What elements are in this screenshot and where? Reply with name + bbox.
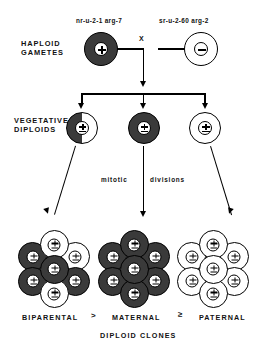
vegetative-diploids-row-label: VEGETATIVE DIPLOIDS: [14, 116, 69, 135]
paternal-clone-cell-nucleus: [228, 275, 241, 288]
plus-minus-sign-icon: [27, 251, 38, 262]
minus-sign-icon: [195, 43, 207, 55]
plus-minus-sign-icon: [76, 122, 88, 134]
plus-minus-sign-icon: [70, 276, 81, 287]
plus-minus-sign-icon: [208, 264, 219, 275]
drop-arrow-paternal: [202, 103, 208, 109]
maternal-diploid-nucleus: [137, 121, 151, 135]
drop-arrow-maternal: [140, 103, 146, 109]
plus-minus-sign-icon: [107, 276, 118, 287]
plus-minus-sign-icon: [129, 264, 140, 275]
plus-minus-sign-icon: [49, 239, 60, 250]
inheritance-diagram: nr-u-2-1 arg-7 sr-u-2-60 arg-2 HAPLOID G…: [0, 0, 267, 349]
biparental-clone-cell-nucleus: [48, 263, 61, 276]
operator-greater-equal: ≥: [178, 310, 183, 320]
plus-minus-sign-icon: [107, 251, 118, 262]
maternal-genotype-label: nr-u-2-1 arg-7: [76, 17, 122, 25]
plus-minus-sign-icon: [186, 251, 197, 262]
mitotic-arrow-head-biparental: [43, 207, 51, 215]
plus-minus-sign-icon: [229, 276, 240, 287]
mitotic-arrow-line-paternal: [210, 146, 232, 215]
biparental-clone-cell: [40, 255, 69, 284]
paternal-clone-cell-nucleus: [207, 287, 220, 300]
paternal-diploid-nucleus: [198, 121, 212, 135]
biparental-clone-cell-nucleus: [26, 250, 39, 263]
maternal-gamete-cell: [84, 32, 118, 66]
paternal-genotype-label: sr-u-2-60 arg-2: [159, 17, 209, 25]
paternal-diploid-cell: [189, 112, 221, 144]
plus-minus-sign-icon: [199, 122, 211, 134]
maternal-gamete-nucleus: [94, 42, 108, 56]
plus-minus-sign-icon: [150, 276, 161, 287]
mitotic-arrow-line-maternal: [143, 146, 145, 214]
plus-minus-sign-icon: [138, 122, 150, 134]
biparental-clone-label: BIPARENTAL: [22, 313, 78, 322]
plus-minus-sign-icon: [229, 251, 240, 262]
maternal-clone-cell: [120, 255, 149, 284]
diploid-clones-caption: DIPLOID CLONES: [100, 331, 177, 340]
plus-minus-sign-icon: [49, 288, 60, 299]
maternal-clone-cell-nucleus: [106, 275, 119, 288]
plus-minus-sign-icon: [49, 264, 60, 275]
paternal-clone-cell-nucleus: [207, 263, 220, 276]
mitotic-arrow-line-biparental: [54, 146, 76, 215]
paternal-clone-cell: [199, 255, 228, 284]
plus-sign-icon: [95, 43, 107, 55]
paternal-gamete-cell: [184, 32, 218, 66]
haploid-gametes-row-label: HAPLOID GAMETES: [21, 39, 64, 58]
paternal-clone-cell-nucleus: [207, 238, 220, 251]
plus-minus-sign-icon: [208, 239, 219, 250]
maternal-clone-cell-nucleus: [106, 250, 119, 263]
biparental-clone-cell-nucleus: [48, 287, 61, 300]
zygote-trunk-arrowhead: [140, 81, 146, 87]
haploid-gametes-label-line2: GAMETES: [21, 48, 64, 57]
mitotic-arrow-head-paternal: [226, 207, 234, 215]
biparental-diploid-nucleus: [75, 121, 89, 135]
zygote-trunk-line: [143, 49, 145, 83]
cross-symbol: X: [139, 35, 145, 44]
maternal-clone-label: MATERNAL: [112, 313, 161, 322]
paternal-gamete-nucleus: [194, 42, 208, 56]
paternal-clone-cell-nucleus: [185, 250, 198, 263]
cross-line-left: [117, 48, 144, 50]
plus-minus-sign-icon: [186, 276, 197, 287]
mitotic-label-right: divisions: [150, 176, 185, 184]
vegetative-diploids-label-line1: VEGETATIVE: [14, 116, 69, 125]
biparental-clone-cell-nucleus: [26, 275, 39, 288]
maternal-clone-cell-nucleus: [149, 250, 162, 263]
maternal-clone-cell-nucleus: [128, 263, 141, 276]
haploid-gametes-label-line1: HAPLOID: [21, 39, 64, 48]
biparental-clone-cell-nucleus: [48, 238, 61, 251]
paternal-clone-cell-nucleus: [185, 275, 198, 288]
vegetative-diploids-label-line2: DIPLOIDS: [14, 125, 69, 134]
biparental-clone-cell-nucleus: [69, 275, 82, 288]
drop-arrow-biparental: [78, 103, 84, 109]
plus-minus-sign-icon: [70, 251, 81, 262]
mitotic-label-left: mitotic: [101, 176, 128, 184]
plus-minus-sign-icon: [129, 288, 140, 299]
plus-minus-sign-icon: [150, 251, 161, 262]
maternal-clone-cell-nucleus: [128, 287, 141, 300]
paternal-clone-cell-nucleus: [228, 250, 241, 263]
mitotic-arrow-head-maternal: [140, 211, 146, 217]
operator-greater-than: >: [91, 311, 97, 321]
plus-minus-sign-icon: [129, 239, 140, 250]
maternal-diploid-cell: [128, 112, 160, 144]
biparental-diploid-cell: [66, 112, 98, 144]
biparental-clone-cell-nucleus: [69, 250, 82, 263]
paternal-clone-label: PATERNAL: [199, 313, 246, 322]
maternal-clone-cell-nucleus: [128, 238, 141, 251]
plus-minus-sign-icon: [27, 276, 38, 287]
maternal-clone-cell-nucleus: [149, 275, 162, 288]
cross-line-right: [158, 48, 185, 50]
plus-minus-sign-icon: [208, 288, 219, 299]
